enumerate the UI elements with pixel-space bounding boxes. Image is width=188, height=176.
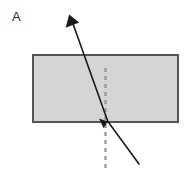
refraction-diagram-svg <box>0 0 188 176</box>
refracted-arrowhead-icon <box>66 15 80 28</box>
incident-ray-line <box>109 123 139 164</box>
panel-label: A <box>12 10 21 24</box>
figure-root: A <box>0 0 188 176</box>
